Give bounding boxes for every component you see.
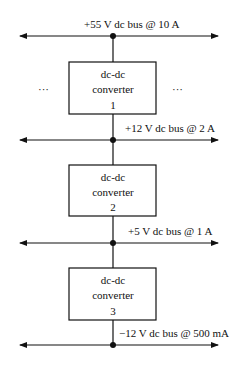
bus-label: −12 V dc bus @ 500 mA — [119, 327, 229, 339]
junction-node — [110, 137, 116, 143]
ellipsis-left: ··· — [38, 83, 49, 95]
bus-label: +12 V dc bus @ 2 A — [125, 122, 215, 134]
bus-label: +5 V dc bus @ 1 A — [128, 225, 212, 237]
junction-node — [110, 240, 116, 246]
bus-5v: +5 V dc bus @ 1 A — [20, 225, 218, 246]
converter-3: dc-dc converter 3 — [69, 268, 156, 320]
junction-node — [110, 33, 116, 39]
bus-neg12v: −12 V dc bus @ 500 mA — [20, 327, 229, 348]
converter-label: converter — [92, 83, 134, 95]
converter-1: dc-dc converter 1 — [69, 62, 156, 114]
converter-label: converter — [92, 289, 134, 301]
bus-label: +55 V dc bus @ 10 A — [84, 18, 179, 30]
converter-number: 3 — [110, 305, 116, 317]
ellipsis-right: ··· — [172, 83, 183, 95]
converter-label: dc-dc — [101, 171, 126, 183]
power-distribution-diagram: +55 V dc bus @ 10 A dc-dc converter 1 ··… — [0, 0, 245, 370]
converter-number: 2 — [110, 201, 116, 213]
junction-node — [110, 342, 116, 348]
bus-12v: +12 V dc bus @ 2 A — [20, 122, 218, 143]
bus-55v: +55 V dc bus @ 10 A — [20, 18, 218, 39]
converter-2: dc-dc converter 2 — [69, 165, 156, 216]
converter-label: dc-dc — [101, 68, 126, 80]
converter-number: 1 — [110, 99, 116, 111]
converter-label: dc-dc — [101, 274, 126, 286]
converter-label: converter — [92, 186, 134, 198]
